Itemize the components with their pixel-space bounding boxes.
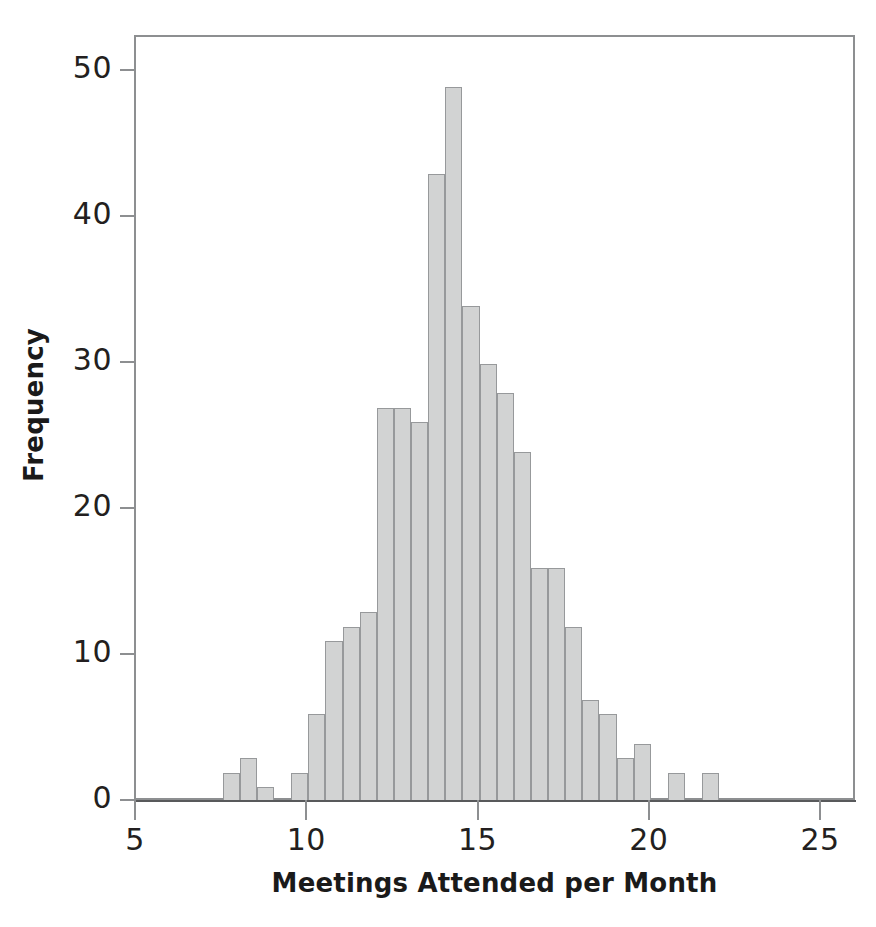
y-axis-tick-label: 10 — [56, 634, 112, 669]
histogram-bar — [702, 773, 719, 802]
y-axis-tick-label: 20 — [56, 488, 112, 523]
y-axis-tick — [120, 215, 134, 217]
histogram-bar — [325, 641, 342, 802]
histogram-bar — [411, 422, 428, 802]
histogram-bar — [343, 627, 360, 802]
histogram-bar — [514, 452, 531, 802]
y-axis-title: Frequency — [19, 275, 49, 535]
histogram-bar — [428, 174, 445, 802]
histogram-bar — [377, 408, 394, 802]
histogram-bar — [531, 568, 548, 802]
histogram-bar — [582, 700, 599, 802]
y-axis-tick-label: 40 — [56, 196, 112, 231]
y-axis-tick — [120, 507, 134, 509]
histogram-bar — [223, 773, 240, 802]
histogram-bar — [291, 773, 308, 802]
x-axis-line — [134, 800, 856, 802]
histogram-bar — [360, 612, 377, 802]
y-axis-tick-label: 50 — [56, 50, 112, 85]
histogram-bar — [548, 568, 565, 802]
histogram-bar — [394, 408, 411, 802]
y-axis-tick — [120, 69, 134, 71]
histogram-bar — [634, 744, 651, 802]
x-axis-tick-label: 25 — [790, 822, 850, 857]
histogram-bar — [599, 714, 616, 802]
x-axis-tick-label: 10 — [276, 822, 336, 857]
y-axis-tick-label: 0 — [56, 780, 112, 815]
histogram-bar — [668, 773, 685, 802]
histogram-bar — [308, 714, 325, 802]
x-axis-tick-label: 15 — [448, 822, 508, 857]
histogram-bar — [462, 306, 479, 802]
y-axis-tick — [120, 361, 134, 363]
histogram-bar — [617, 758, 634, 802]
y-axis-line — [134, 35, 136, 802]
histogram-bar — [240, 758, 257, 802]
histogram-bar — [497, 393, 514, 802]
x-axis-tick-label: 5 — [105, 822, 165, 857]
x-axis-tick — [648, 800, 650, 820]
y-axis-tick — [120, 799, 134, 801]
bars-layer — [136, 37, 857, 802]
plot-area — [134, 35, 855, 800]
histogram-figure: 01020304050 510152025 Meetings Attended … — [0, 0, 876, 927]
histogram-bar — [565, 627, 582, 802]
x-axis-tick-label: 20 — [619, 822, 679, 857]
x-axis-tick — [819, 800, 821, 820]
x-axis-tick — [305, 800, 307, 820]
x-axis-title: Meetings Attended per Month — [134, 868, 855, 898]
y-axis-tick — [120, 653, 134, 655]
y-axis-tick-label: 30 — [56, 342, 112, 377]
x-axis-tick — [477, 800, 479, 820]
histogram-bar — [480, 364, 497, 802]
histogram-bar — [445, 87, 462, 802]
x-axis-tick — [134, 800, 136, 820]
